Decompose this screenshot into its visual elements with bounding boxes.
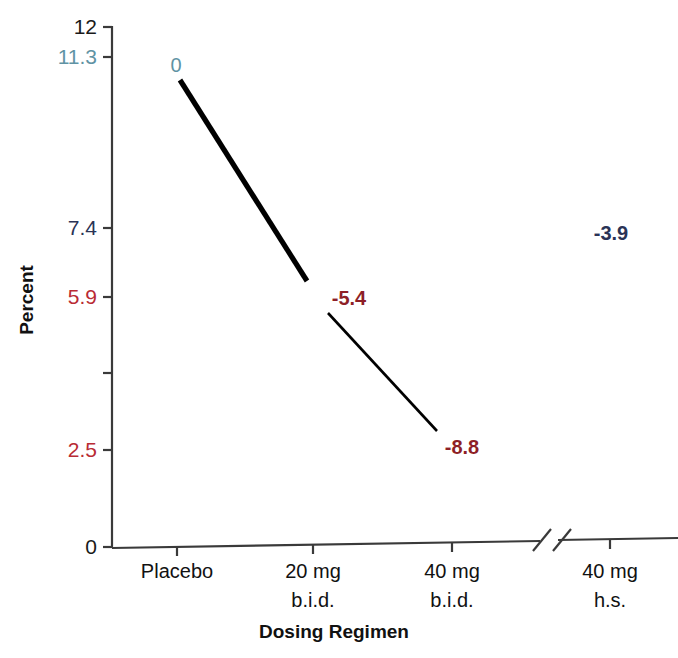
y-tick-label-12: 12 bbox=[74, 15, 97, 38]
x-label-40mg-hs-line1: 40 mg bbox=[582, 560, 638, 582]
x-label-20mg-line1: 20 mg bbox=[285, 560, 341, 582]
chart-container: 12 11.3 7.4 5.9 2.5 0 Percent Placebo 20… bbox=[0, 0, 678, 658]
x-label-40mg-bid-line1: 40 mg bbox=[424, 560, 480, 582]
data-label-40mg-bid: -8.8 bbox=[445, 436, 479, 458]
data-label-placebo: 0 bbox=[170, 54, 181, 76]
line-chart: 12 11.3 7.4 5.9 2.5 0 Percent Placebo 20… bbox=[0, 0, 678, 658]
data-label-40mg-hs: -3.9 bbox=[594, 222, 628, 244]
x-axis-line-right bbox=[558, 538, 678, 540]
data-label-20mg-bid: -5.4 bbox=[332, 287, 367, 309]
x-label-placebo-line1: Placebo bbox=[141, 560, 213, 582]
series-segment-20mg-to-40mg bbox=[328, 313, 437, 431]
x-label-20mg-line2: b.i.d. bbox=[291, 589, 334, 611]
y-axis-title: Percent bbox=[16, 264, 37, 334]
y-tick-label-11-3: 11.3 bbox=[58, 45, 97, 68]
y-tick-label-2-5: 2.5 bbox=[68, 438, 97, 461]
y-tick-label-0: 0 bbox=[85, 535, 97, 558]
y-tick-label-7-4: 7.4 bbox=[68, 216, 98, 239]
x-label-40mg-hs-line2: h.s. bbox=[594, 589, 626, 611]
x-label-40mg-bid-line2: b.i.d. bbox=[430, 589, 473, 611]
x-axis-title: Dosing Regimen bbox=[259, 621, 409, 642]
y-tick-label-5-9: 5.9 bbox=[68, 285, 97, 308]
series-segment-placebo-to-20mg bbox=[180, 80, 307, 281]
